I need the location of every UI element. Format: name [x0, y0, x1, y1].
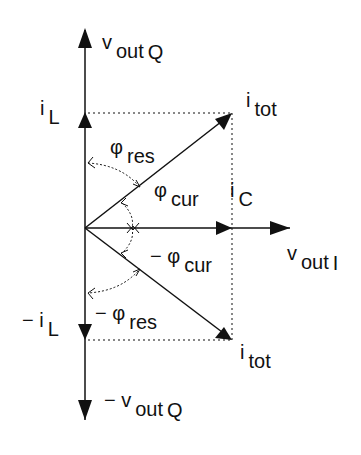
phasor-diagram: voutQ iL itot φres φcur iC voutI − φcur …: [0, 0, 361, 455]
itot-bot-label: itot: [240, 342, 271, 362]
itot-top-vector: [85, 118, 226, 228]
itot-top-arrow-icon: [215, 113, 232, 130]
phi-cur-arc: [122, 203, 133, 228]
neg-vout-q-arrow-icon: [78, 400, 92, 420]
il-arrow-icon: [78, 112, 92, 128]
itot-top-label: itot: [246, 90, 277, 110]
neg-phi-res-label: − φres: [95, 303, 157, 323]
phasor-graphics: [0, 0, 361, 455]
phi-res-label: φres: [110, 137, 155, 157]
vout-i-arrow-icon: [270, 221, 290, 235]
vout-q-arrow-icon: [78, 28, 92, 48]
neg-phi-cur-label: − φcur: [150, 246, 212, 266]
phi-cur-label: φcur: [154, 180, 199, 200]
vout-q-label: voutQ: [102, 32, 163, 52]
ic-arrow-icon: [216, 221, 232, 235]
ic-label: iC: [230, 180, 253, 200]
neg-vout-q-label: − voutQ: [104, 390, 183, 410]
il-label: iL: [40, 98, 60, 118]
vout-i-label: voutI: [287, 243, 338, 263]
neg-phi-cur-arc: [122, 228, 133, 253]
neg-phi-res-arc: [88, 271, 138, 293]
neg-il-label: − iL: [22, 310, 59, 330]
neg-il-arrow-icon: [78, 324, 92, 340]
